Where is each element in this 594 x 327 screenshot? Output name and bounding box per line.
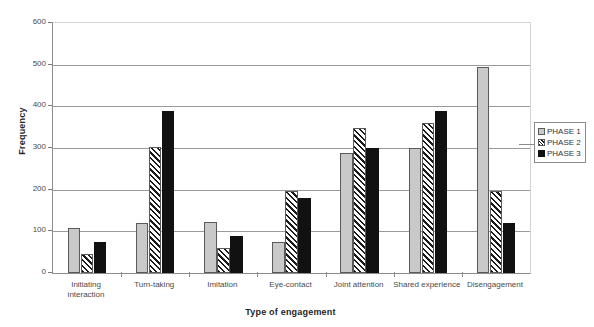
bar-phase-1 [477, 67, 490, 273]
legend-item: PHASE 3 [538, 148, 581, 159]
bar-group [394, 23, 462, 273]
bar-group [121, 23, 189, 273]
y-tick-label: 300 [6, 143, 46, 151]
bar-phase-3 [162, 111, 175, 274]
bar-phase-1 [68, 228, 81, 273]
bar-phase-2 [422, 123, 435, 273]
y-tick-label: 400 [6, 101, 46, 109]
legend-label: PHASE 3 [547, 149, 581, 158]
bar-phase-3 [298, 198, 311, 273]
bar-phase-1 [340, 153, 353, 273]
legend-item: PHASE 2 [538, 137, 581, 148]
y-tick-label: 100 [6, 226, 46, 234]
x-axis-tick-mark [326, 272, 327, 277]
x-axis-tick-mark [257, 272, 258, 277]
y-tick-label: 500 [6, 60, 46, 68]
bar-phase-2 [149, 147, 162, 273]
x-tick-label: Joint attention [325, 280, 393, 290]
bar-phase-2 [285, 191, 298, 273]
bar-phase-3 [503, 223, 516, 273]
bar-phase-2 [490, 191, 503, 273]
bar-phase-2 [81, 254, 94, 273]
bar-chart: Frequency 0100200300400500600 Initiating… [0, 0, 594, 327]
legend-connector-line [519, 144, 534, 145]
bar-phase-2 [217, 248, 230, 273]
legend-item: PHASE 1 [538, 126, 581, 137]
legend-swatch-icon [538, 128, 545, 135]
x-axis-tick-mark [189, 272, 190, 277]
x-axis-tick-mark [394, 272, 395, 277]
bar-group [462, 23, 530, 273]
bar-phase-1 [136, 223, 149, 273]
bar-group [189, 23, 257, 273]
bar-group [257, 23, 325, 273]
x-axis-tick-mark [121, 272, 122, 277]
chart-legend: PHASE 1PHASE 2PHASE 3 [534, 122, 586, 163]
bar-phase-3 [230, 236, 243, 274]
x-tick-label: Imitation [188, 280, 256, 290]
bar-phase-3 [366, 148, 379, 273]
legend-label: PHASE 2 [547, 138, 581, 147]
x-tick-label: Shared experience [393, 280, 461, 290]
x-tick-label: Initiating interaction [52, 280, 120, 300]
legend-label: PHASE 1 [547, 127, 581, 136]
bar-phase-3 [94, 242, 107, 273]
x-tick-label: Disengagement [461, 280, 529, 290]
bar-phase-1 [204, 222, 217, 273]
bar-phase-1 [409, 148, 422, 273]
y-tick-label: 0 [6, 268, 46, 276]
x-tick-label: Turn-taking [120, 280, 188, 290]
legend-swatch-icon [538, 150, 545, 157]
plot-area [52, 22, 531, 274]
y-tick-label: 600 [6, 18, 46, 26]
bar-phase-1 [272, 242, 285, 273]
x-axis-title: Type of engagement [52, 307, 529, 317]
bar-phase-2 [353, 128, 366, 273]
bar-group [326, 23, 394, 273]
x-tick-label: Eye-contact [256, 280, 324, 290]
legend-swatch-icon [538, 139, 545, 146]
x-axis-tick-mark [462, 272, 463, 277]
y-axis-title: Frequency [17, 71, 27, 191]
bar-group [53, 23, 121, 273]
y-tick-label: 200 [6, 185, 46, 193]
bar-phase-3 [435, 111, 448, 274]
